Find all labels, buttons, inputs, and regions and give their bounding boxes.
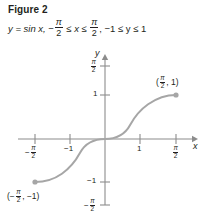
x-tick-neg-pi-over-2-minus: −: [25, 149, 30, 157]
point-label-lower-left: ( − π 2 , −1 ): [7, 189, 39, 204]
equation-range: −1 ≤ y ≤ 1: [104, 23, 146, 34]
plot-area: y x − π 2 −1 1 π 2 π 2: [0, 38, 203, 213]
point-upper-paren-close: ): [176, 78, 179, 87]
point-lower-numerator: π: [16, 189, 21, 196]
x-tick-neg-pi-over-2-fraction: π 2: [31, 145, 36, 160]
equation-upper-bound-denominator: 2: [91, 28, 98, 38]
equation-function: y = sin x,: [8, 23, 46, 34]
figure-equation: y = sin x, − π 2 ≤ x ≤ π 2 , −1 ≤ y ≤ 1: [8, 18, 146, 38]
point-upper-denominator: 2: [160, 83, 165, 90]
point-label-upper-right: ( π 2 , 1 ): [156, 75, 179, 90]
point-lower-paren-close: ): [37, 192, 40, 201]
x-axis-label: x: [193, 141, 198, 151]
y-tick-pi-over-2-numerator: π: [91, 59, 96, 66]
x-tick-neg-pi-over-2-denominator: 2: [31, 153, 36, 160]
point-upper-numerator: π: [160, 75, 165, 82]
x-tick-label-neg-one: −1: [64, 145, 73, 153]
y-tick-neg-pi-over-2-fraction: π 2: [90, 198, 95, 213]
point-lower-denominator: 2: [16, 197, 21, 204]
y-tick-pi-over-2-denominator: 2: [91, 67, 96, 74]
point-upper-y-value: , 1: [166, 78, 175, 87]
x-tick-pi-over-2-numerator: π: [173, 145, 178, 152]
x-tick-pi-over-2-fraction: π 2: [173, 145, 178, 160]
endpoint-dot-left: [32, 179, 37, 184]
equation-lower-bound-denominator: 2: [55, 28, 62, 38]
y-tick-pi-over-2-fraction: π 2: [91, 59, 96, 74]
y-tick-label-neg-pi-over-2: − π 2: [84, 198, 96, 213]
point-upper-fraction: π 2: [160, 75, 165, 90]
figure-title: Figure 2: [8, 4, 48, 15]
x-tick-pi-over-2-denominator: 2: [173, 153, 178, 160]
x-tick-label-one: 1: [137, 145, 141, 153]
point-upper-paren-open: (: [156, 78, 159, 87]
y-tick-neg-pi-over-2-numerator: π: [90, 198, 95, 205]
plot-svg: [0, 38, 203, 213]
y-tick-label-pi-over-2: π 2: [90, 59, 97, 74]
x-tick-label-neg-pi-over-2: − π 2: [25, 145, 37, 160]
equation-comma: ,: [99, 23, 102, 34]
x-tick-label-pi-over-2: π 2: [172, 145, 179, 160]
equation-lower-bound-fraction: π 2: [55, 18, 63, 38]
equation-upper-bound-numerator: π: [90, 18, 98, 28]
y-tick-neg-pi-over-2-minus: −: [84, 202, 89, 210]
equation-minus-sign: −: [48, 23, 54, 34]
y-axis-label: y: [95, 48, 100, 58]
y-tick-label-neg-one: −1: [87, 177, 96, 185]
equation-inequality-middle: ≤ x ≤: [66, 23, 86, 34]
y-tick-label-one: 1: [93, 90, 97, 98]
y-tick-neg-pi-over-2-denominator: 2: [90, 206, 95, 213]
x-tick-neg-pi-over-2-numerator: π: [31, 145, 36, 152]
point-lower-minus: −: [10, 192, 15, 201]
point-lower-y-value: , −1: [22, 192, 36, 201]
equation-lower-bound-numerator: π: [55, 18, 63, 28]
equation-upper-bound-fraction: π 2: [90, 18, 98, 38]
endpoint-dot-right: [173, 92, 178, 97]
y-axis-arrow: [102, 54, 108, 60]
point-lower-fraction: π 2: [16, 189, 21, 204]
figure-container: Figure 2 y = sin x, − π 2 ≤ x ≤ π 2 , −1…: [0, 0, 203, 213]
